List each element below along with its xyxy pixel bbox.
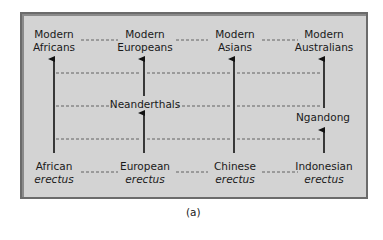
label-neanderthals: Neanderthals bbox=[110, 98, 180, 111]
label-african-erectus: African erectus bbox=[34, 160, 73, 185]
label-indonesian-erectus: Indonesian erectus bbox=[295, 160, 352, 185]
label-modern-europeans: Modern Europeans bbox=[117, 28, 172, 53]
label-modern-africans: Modern Africans bbox=[33, 28, 75, 53]
label-ngandong: Ngandong bbox=[296, 111, 350, 124]
gene-flow-dashes bbox=[56, 40, 321, 172]
label-chinese-erectus: Chinese erectus bbox=[214, 160, 256, 185]
label-european-erectus: European erectus bbox=[120, 160, 170, 185]
figure-caption: (a) bbox=[186, 206, 201, 218]
label-modern-asians: Modern Asians bbox=[215, 28, 254, 53]
label-modern-australians: Modern Australians bbox=[295, 28, 354, 53]
